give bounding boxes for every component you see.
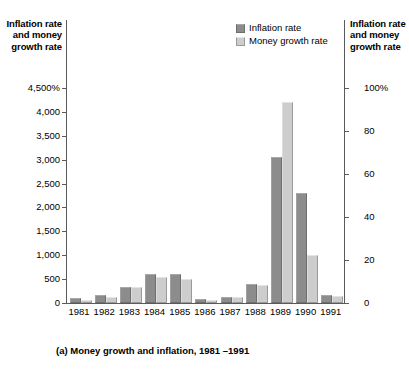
legend-item-inflation: Inflation rate [236, 22, 328, 34]
y-tick-label-right: 20 [364, 255, 404, 265]
bar-money-1985 [181, 279, 192, 303]
bar-money-1987 [232, 297, 243, 303]
y-tick-mark-left [62, 112, 66, 113]
bar-group-1987 [220, 85, 245, 303]
y-tick-label-left: 3,500 [8, 131, 60, 141]
y-tick-mark-left [62, 136, 66, 137]
y-tick-mark-right [345, 303, 349, 304]
y-tick-mark-left [62, 207, 66, 208]
bar-group-1984 [144, 85, 169, 303]
bar-inflation-1991 [321, 295, 332, 303]
y-tick-mark-left [62, 303, 66, 304]
y-tick-label-left: 0 [8, 298, 60, 308]
bar-inflation-1985 [170, 274, 181, 303]
y-tick-mark-right [345, 217, 349, 218]
bar-inflation-1989 [271, 157, 282, 303]
bar-group-1988 [245, 85, 270, 303]
y-tick-label-left: 3,000 [8, 155, 60, 165]
bar-group-1981 [69, 85, 94, 303]
y-tick-label-right: 80 [364, 126, 404, 136]
bar-inflation-1981 [70, 298, 81, 303]
bar-money-1984 [156, 277, 167, 303]
bar-money-1983 [131, 287, 142, 303]
bar-inflation-1988 [246, 284, 257, 303]
bar-money-1988 [257, 285, 268, 303]
y-tick-label-right: 0 [364, 298, 404, 308]
y-tick-label-left: 4,000 [8, 107, 60, 117]
bar-group-1983 [119, 85, 144, 303]
legend-swatch-icon-money [236, 37, 245, 46]
y-tick-mark-left [62, 160, 66, 161]
legend-label-money: Money growth rate [249, 36, 328, 46]
y-tick-label-left: 500 [8, 274, 60, 284]
bar-group-1989 [270, 85, 295, 303]
legend-item-money: Money growth rate [236, 35, 328, 47]
y-tick-label-left: 4,500% [8, 83, 60, 93]
y-tick-mark-left [62, 88, 66, 89]
y-tick-label-left: 1,000 [8, 250, 60, 260]
y-tick-mark-right [345, 174, 349, 175]
y-tick-label-right: 40 [364, 212, 404, 222]
y-tick-mark-right [345, 260, 349, 261]
bar-group [67, 85, 344, 303]
left-axis-title: Inflation rate and money growth rate [4, 18, 62, 52]
bar-group-1982 [94, 85, 119, 303]
bar-money-1990 [307, 255, 318, 303]
figure-money-growth-inflation: Inflation rate and money growth rate Inf… [0, 0, 409, 378]
bar-group-1986 [194, 85, 219, 303]
bar-inflation-1982 [95, 295, 106, 303]
legend-swatch-icon-inflation [236, 24, 245, 33]
bar-group-1990 [295, 85, 320, 303]
bar-inflation-1987 [221, 297, 232, 303]
bar-inflation-1984 [145, 274, 156, 303]
bar-money-1982 [106, 297, 117, 303]
y-tick-label-right: 60 [364, 169, 404, 179]
y-tick-label-left: 1,500 [8, 226, 60, 236]
right-axis-title: Inflation rate and money growth rate [350, 18, 406, 52]
bar-money-1991 [332, 296, 343, 303]
y-tick-mark-right [345, 88, 349, 89]
figure-caption: (a) Money growth and inflation, 1981 –19… [56, 345, 249, 356]
bar-group-1985 [169, 85, 194, 303]
bar-money-1981 [81, 300, 92, 303]
y-tick-mark-left [62, 231, 66, 232]
legend: Inflation rate Money growth rate [236, 22, 328, 48]
y-tick-mark-left [62, 184, 66, 185]
bar-money-1989 [282, 102, 293, 303]
y-tick-mark-left [62, 279, 66, 280]
bar-group-1991 [320, 85, 345, 303]
y-tick-mark-left [62, 255, 66, 256]
x-axis-line [66, 303, 345, 304]
bar-inflation-1986 [195, 299, 206, 303]
y-tick-label-right: 100% [364, 83, 404, 93]
bar-inflation-1983 [120, 287, 131, 303]
y-tick-label-left: 2,500 [8, 179, 60, 189]
bar-money-1986 [206, 300, 217, 303]
x-tick-label-1991: 1991 [314, 306, 348, 317]
legend-label-inflation: Inflation rate [249, 23, 301, 33]
y-tick-mark-right [345, 131, 349, 132]
y-tick-label-left: 2,000 [8, 202, 60, 212]
bar-inflation-1990 [296, 193, 307, 303]
